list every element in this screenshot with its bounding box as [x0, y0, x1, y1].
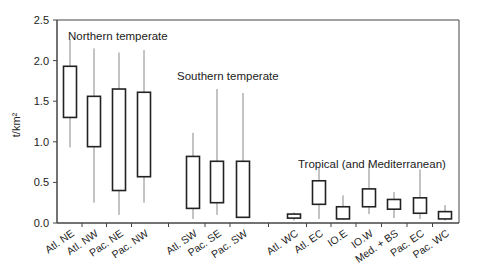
x-tick-label: IO.E: [325, 227, 349, 249]
box: [337, 207, 350, 219]
x-axis-labels: Atl. NEAtl. NWPac. NEPac. NWAtl. SWPac. …: [42, 227, 451, 265]
box: [211, 161, 224, 202]
box: [187, 156, 200, 208]
y-axis-ticks: 0.00.51.01.52.02.5: [34, 14, 57, 229]
y-tick-label: 1.0: [34, 136, 49, 148]
group-label: Tropical (and Mediterranean): [298, 158, 446, 170]
box: [414, 198, 427, 213]
x-tick-label: Atl. WC: [264, 227, 300, 257]
y-tick-label: 1.5: [34, 95, 49, 107]
y-tick-label: 0.0: [34, 217, 49, 229]
y-tick-label: 2.0: [34, 55, 49, 67]
boxes: [64, 66, 452, 219]
box: [88, 96, 101, 146]
y-axis-label: t/km²: [10, 112, 22, 137]
box: [363, 189, 376, 207]
box: [237, 161, 250, 217]
y-tick-label: 0.5: [34, 176, 49, 188]
box: [64, 66, 77, 117]
group-label: Southern temperate: [177, 70, 279, 82]
y-tick-label: 2.5: [34, 14, 49, 26]
box: [138, 92, 151, 176]
box-plot-chart: 0.00.51.01.52.02.5 Atl. NEAtl. NWPac. NE…: [0, 0, 480, 275]
group-label: Northern temperate: [68, 30, 168, 42]
box: [288, 214, 301, 218]
box: [113, 89, 126, 190]
box: [388, 199, 401, 209]
box: [313, 181, 326, 205]
x-tick-label: Atl. EC: [291, 227, 325, 256]
box: [439, 212, 452, 219]
